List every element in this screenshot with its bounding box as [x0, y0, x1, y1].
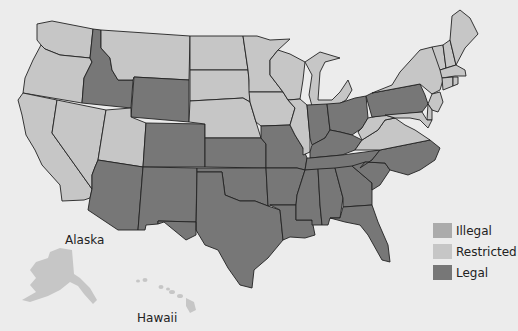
legend-label-legal: Legal [456, 266, 488, 280]
state-michigan [305, 52, 352, 106]
state-wyoming [131, 77, 189, 122]
swatch-legal [433, 265, 452, 280]
state-colorado [143, 123, 205, 167]
state-connecticut [442, 77, 453, 90]
swatch-restricted [433, 244, 452, 259]
legend-item-restricted: Restricted [433, 241, 517, 262]
legend-label-illegal: Illegal [456, 224, 492, 238]
state-north-dakota [190, 36, 248, 70]
alaska-label: Alaska [65, 233, 104, 247]
legend-item-legal: Legal [433, 262, 517, 283]
legend-label-restricted: Restricted [456, 245, 517, 259]
hawaii-label: Hawaii [137, 311, 177, 325]
state-south-dakota [190, 70, 250, 102]
state-alaska [22, 248, 97, 304]
state-montana [101, 30, 190, 80]
state-new-mexico [138, 167, 197, 230]
state-maine [450, 10, 478, 65]
state-arizona [88, 160, 143, 230]
state-rhode-island [453, 77, 458, 86]
swatch-illegal [433, 223, 452, 238]
legend-item-illegal: Illegal [433, 220, 517, 241]
state-hawaii [136, 278, 196, 313]
state-kansas [205, 138, 266, 168]
legend: Illegal Restricted Legal [433, 220, 517, 283]
